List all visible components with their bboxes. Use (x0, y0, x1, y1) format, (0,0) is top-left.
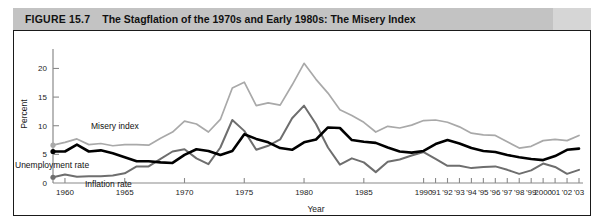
figure-container: FIGURE 15.7 The Stagflation of the 1970s… (0, 0, 602, 224)
misery-index-line-chart: 05101520Percent1960196519701975198019851… (13, 31, 591, 216)
figure-title-bar: FIGURE 15.7 The Stagflation of the 1970s… (13, 8, 591, 31)
x-axis-tick-label: '94 (466, 188, 477, 197)
x-axis-tick-label: '96 (490, 188, 501, 197)
figure-title: The Stagflation of the 1970s and Early 1… (102, 13, 415, 25)
figure-number: FIGURE 15.7 (25, 13, 90, 25)
x-axis-tick-label: 1975 (235, 188, 253, 197)
x-axis-tick-label: '98 (514, 188, 525, 197)
inflation-rate-line (53, 106, 579, 178)
misery-index-label: Misery index (91, 121, 139, 131)
x-axis-tick-label: 1960 (56, 188, 74, 197)
y-axis-title: Percent (19, 99, 29, 129)
y-axis-tick-label: 10 (38, 122, 47, 131)
chart-plot-area: 05101520Percent1960196519701975198019851… (13, 31, 591, 216)
unemployment-rate-line-start-marker (50, 149, 55, 154)
y-axis-tick-label: 0 (43, 179, 48, 188)
x-axis-tick-label: 1985 (355, 188, 373, 197)
misery-index-line-start-marker (50, 143, 55, 148)
x-axis-tick-label: '02 (562, 188, 573, 197)
inflation-rate-label: Inflation rate (85, 179, 132, 189)
inflation-rate-line-start-marker (50, 175, 55, 180)
y-axis-tick-label: 15 (38, 93, 47, 102)
misery-index-line (53, 63, 579, 148)
x-axis-tick-label: 1965 (116, 188, 134, 197)
x-axis-tick-label: '01 (550, 188, 561, 197)
x-axis-tick-label: '95 (478, 188, 489, 197)
y-axis-tick-label: 5 (43, 150, 48, 159)
x-axis-tick-label: '91 (430, 188, 441, 197)
y-axis-tick-label: 20 (38, 64, 47, 73)
x-axis-tick-label: '03 (574, 188, 585, 197)
x-axis-tick-label: '97 (502, 188, 513, 197)
x-axis-title: Year (307, 204, 324, 214)
x-axis-tick-label: '92 (442, 188, 453, 197)
unemployment-rate-label: Unemployment rate (15, 160, 89, 170)
x-axis-tick-label: '93 (454, 188, 465, 197)
x-axis-tick-label: 1980 (295, 188, 313, 197)
x-axis-tick-label: 1970 (176, 188, 194, 197)
